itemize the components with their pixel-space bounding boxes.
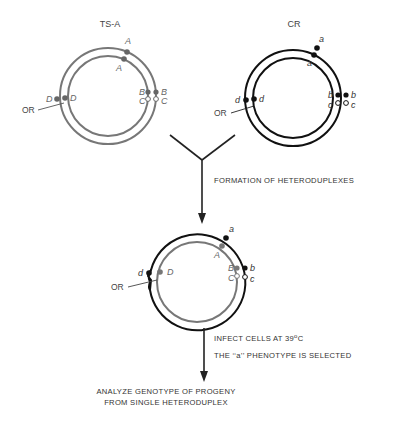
merge-arrow: FORMATION OF HETERODUPLEXES (170, 135, 354, 224)
hd-label-a-outer: a (229, 224, 234, 234)
hd-marker-c-inner (235, 274, 240, 279)
hd-label-c-inner: C (228, 273, 235, 283)
cr-marker-a-inner (311, 52, 317, 58)
step1-label: FORMATION OF HETERODUPLEXES (214, 176, 354, 185)
hd-label-d-inner: D (167, 267, 174, 277)
hd-label-a-inner: A (213, 250, 220, 260)
hd-marker-d-inner (157, 269, 163, 275)
cr-label-c-inner: c (328, 100, 333, 110)
merge-arm-left (170, 135, 202, 160)
hd-label-b-inner: B (228, 263, 234, 273)
ts-a-label-d-outer: D (46, 94, 53, 104)
arrowhead-icon (198, 213, 206, 224)
parent-ts-a: TS-A A A B B C C D D OR (22, 19, 168, 144)
cr-title: CR (288, 19, 301, 29)
ts-a-label-d-inner: D (70, 93, 77, 103)
result-line1: ANALYZE GENOTYPE OF PROGENY (96, 387, 235, 396)
result: ANALYZE GENOTYPE OF PROGENY FROM SINGLE … (96, 387, 235, 407)
step2-line1: INFECT CELLS AT 39oC (214, 333, 304, 343)
hd-marker-b-inner (234, 265, 239, 270)
ts-a-label-a-outer: A (124, 36, 131, 46)
ts-a-origin-pointer (38, 103, 64, 110)
hd-label-b-outer: b (250, 263, 255, 273)
ts-a-title: TS-A (100, 19, 121, 29)
cr-label-b-outer: b (351, 90, 356, 100)
cr-label-a-inner: a (307, 58, 312, 68)
ts-a-marker-a-inner (121, 56, 127, 62)
merge-arm-right (202, 135, 235, 160)
hd-marker-a-inner (219, 243, 225, 249)
cr-marker-b-outer (343, 92, 348, 97)
cr-marker-c-outer (344, 101, 349, 106)
heteroduplex-diagram: TS-A A A B B C C D D OR CR a a (0, 0, 398, 424)
cr-marker-d-inner (251, 96, 257, 102)
result-line2: FROM SINGLE HETERODUPLEX (104, 398, 228, 407)
cr-label-d-inner: d (259, 94, 265, 104)
cr-origin-pointer (231, 106, 254, 113)
cr-marker-c-inner (336, 101, 341, 106)
cr-label-a-outer: a (319, 34, 324, 44)
heteroduplex: a A B b C c d D OR (111, 224, 255, 330)
hd-origin-label: OR (111, 282, 124, 292)
selection-arrow: INFECT CELLS AT 39oC THE ‘‘a’’ PHENOTYPE… (200, 328, 352, 382)
ts-a-marker-c-outer (154, 97, 159, 102)
parent-cr: CR a a b b c c d d OR (214, 19, 356, 146)
arrowhead-icon (200, 371, 208, 382)
ts-a-marker-c-inner (146, 97, 151, 102)
cr-label-b-inner: b (328, 90, 333, 100)
ts-a-inner-strand (68, 56, 148, 136)
hd-marker-d-outer (146, 270, 152, 276)
hd-marker-a-outer (223, 235, 229, 241)
step2-line2: THE ‘‘a’’ PHENOTYPE IS SELECTED (214, 351, 352, 360)
cr-inner-strand (253, 58, 333, 138)
cr-origin-label: OR (214, 108, 227, 118)
ts-a-label-a-inner: A (115, 63, 122, 73)
cr-label-c-outer: c (351, 100, 356, 110)
hd-label-c-outer: c (250, 274, 255, 284)
heteroduplex-inner-strand (157, 242, 237, 322)
ts-a-marker-d-outer (54, 96, 60, 102)
ts-a-marker-d-inner (62, 95, 68, 101)
ts-a-label-c-inner: C (139, 96, 146, 106)
hd-label-d-outer: d (138, 268, 144, 278)
cr-label-d-outer: d (235, 95, 241, 105)
ts-a-marker-a-outer (124, 49, 130, 55)
cr-marker-d-outer (243, 97, 249, 103)
ts-a-origin-label: OR (22, 105, 35, 115)
ts-a-label-c-outer: C (161, 96, 168, 106)
hd-marker-b-outer (242, 265, 247, 270)
cr-marker-b-inner (335, 92, 340, 97)
cr-marker-a-outer (314, 45, 320, 51)
ts-a-marker-b-inner (145, 89, 150, 94)
hd-origin-pointer (128, 280, 157, 287)
hd-marker-c-outer (243, 275, 248, 280)
ts-a-marker-b-outer (153, 89, 158, 94)
